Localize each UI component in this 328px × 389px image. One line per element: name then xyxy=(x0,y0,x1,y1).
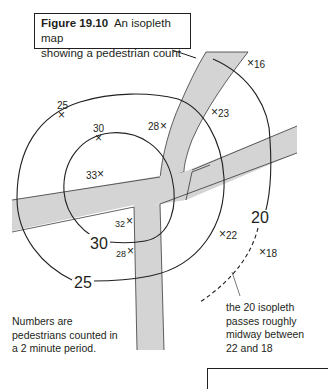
point-28-north: 28 × xyxy=(148,119,167,133)
svg-text:28: 28 xyxy=(148,121,160,132)
annotation-leader xyxy=(232,272,240,296)
legend-line: a 2 minute period. xyxy=(12,342,118,356)
cross-icon: × xyxy=(160,119,167,133)
legend-note: Numbers are pedestrians counted in a 2 m… xyxy=(12,315,118,356)
annotation-line: the 20 isopleth xyxy=(226,301,304,315)
svg-text:33: 33 xyxy=(86,170,98,181)
svg-text:32: 32 xyxy=(115,219,125,229)
annotation-line: 22 and 18 xyxy=(226,342,304,356)
point-22: × 22 xyxy=(219,227,238,241)
cross-icon: × xyxy=(97,167,104,181)
point-25: 25 × xyxy=(57,100,69,122)
cross-icon: × xyxy=(211,105,218,119)
cross-icon: × xyxy=(219,227,226,241)
point-16: × 16 xyxy=(247,56,266,70)
svg-text:23: 23 xyxy=(218,108,230,119)
figure-label: Figure 19.10 xyxy=(41,17,108,29)
svg-text:22: 22 xyxy=(226,230,238,241)
isopleth-label-30: 30 xyxy=(90,235,108,252)
isopleth-label-25: 25 xyxy=(74,274,92,291)
point-33: 33 × xyxy=(86,167,104,181)
figure-caption: Figure 19.10 An isopleth map showing a p… xyxy=(34,13,191,49)
figure-title-line2: showing a pedestrian count xyxy=(41,46,184,61)
point-18: × 18 xyxy=(259,245,278,259)
annotation-line: passes roughly xyxy=(226,315,304,329)
legend-line: Numbers are xyxy=(12,315,118,329)
cross-icon: × xyxy=(126,214,133,228)
cross-icon: × xyxy=(58,108,65,122)
svg-text:16: 16 xyxy=(254,59,266,70)
cross-icon: × xyxy=(247,56,254,70)
point-32: 32 × xyxy=(115,214,133,229)
cross-icon: × xyxy=(259,245,266,259)
next-figure-box-edge xyxy=(207,368,328,389)
cross-icon: × xyxy=(127,244,134,258)
annotation-line: midway between xyxy=(226,328,304,342)
isopleth-label-20: 20 xyxy=(251,209,269,226)
isopleth-annotation: the 20 isopleth passes roughly midway be… xyxy=(226,301,304,355)
road-south xyxy=(134,204,164,350)
cross-icon: × xyxy=(95,131,102,145)
point-28-south: 28 × xyxy=(116,244,134,259)
svg-text:18: 18 xyxy=(266,248,278,259)
svg-text:28: 28 xyxy=(116,249,126,259)
point-23: × 23 xyxy=(211,105,230,119)
legend-line: pedestrians counted in xyxy=(12,329,118,343)
